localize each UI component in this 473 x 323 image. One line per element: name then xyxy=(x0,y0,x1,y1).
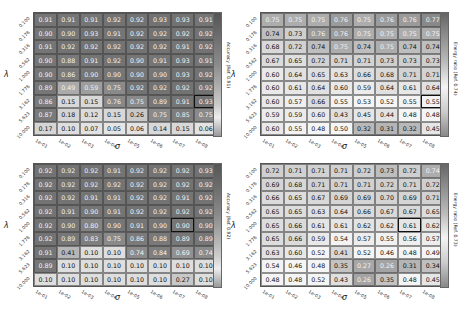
heatmap-cell: 0.12 xyxy=(80,108,103,122)
heatmap-cell: 0.65 xyxy=(261,232,284,246)
x-tick-label: 1e-08 xyxy=(195,138,209,149)
heatmap-cell: 0.60 xyxy=(261,67,284,81)
heatmap-cell: 0.91 xyxy=(126,218,149,232)
heatmap-cell: 0.65 xyxy=(284,54,307,68)
heatmap-cell: 0.91 xyxy=(34,13,57,27)
heatmap-cell: 0.75 xyxy=(126,95,149,109)
x-axis-title: σ xyxy=(115,142,120,151)
y-axis-title: λ xyxy=(231,221,236,230)
heatmap-cell: 0.75 xyxy=(284,13,307,27)
x-axis-title: σ xyxy=(342,293,347,302)
heatmap-cell: 0.46 xyxy=(284,259,307,273)
x-tick-label: 1e-03 xyxy=(80,138,94,149)
heatmap-cell: 0.10 xyxy=(171,259,194,273)
heatmap-cell: 0.60 xyxy=(330,81,353,95)
heatmap-cell: 0.55 xyxy=(375,232,398,246)
heatmap-cell: 0.92 xyxy=(126,27,149,41)
heatmap-cell: 0.67 xyxy=(398,205,421,219)
heatmap-cell: 0.71 xyxy=(330,178,353,192)
heatmap-cell: 0.92 xyxy=(171,164,194,178)
heatmap-cell: 0.59 xyxy=(307,232,330,246)
heatmap-cell: 0.10 xyxy=(80,273,103,287)
heatmap-cell: 0.92 xyxy=(148,40,171,54)
heatmap-cell: 0.53 xyxy=(353,95,376,109)
heatmap-cell: 0.75 xyxy=(148,108,171,122)
x-tick-label: 1e-06 xyxy=(149,138,163,149)
heatmap-cell: 0.89 xyxy=(171,232,194,246)
colorbar-label: Energy ratio (Ref. 0.74) xyxy=(453,42,458,95)
heatmap-cell: 0.73 xyxy=(284,27,307,41)
heatmap-cell: 0.27 xyxy=(353,259,376,273)
x-tick-label: 1e-07 xyxy=(172,138,186,149)
heatmap-cell: 0.92 xyxy=(57,40,80,54)
heatmap-cell: 0.92 xyxy=(171,27,194,41)
heatmap-cell: 0.43 xyxy=(330,108,353,122)
heatmap-cell: 0.05 xyxy=(103,122,126,136)
x-tick-label: 1e-02 xyxy=(284,289,298,300)
heatmap-cell: 0.71 xyxy=(307,164,330,178)
heatmap-cell: 0.10 xyxy=(80,246,103,260)
heatmap-cell: 0.17 xyxy=(34,122,57,136)
heatmap-cell: 0.91 xyxy=(103,191,126,205)
heatmap-cell: 0.10 xyxy=(57,259,80,273)
heatmap-cell: 0.74 xyxy=(398,40,421,54)
heatmap-cell: 0.66 xyxy=(353,67,376,81)
heatmap-cell: 0.90 xyxy=(126,54,149,68)
heatmap-cell: 0.60 xyxy=(261,122,284,136)
heatmap-cell: 0.93 xyxy=(171,54,194,68)
heatmap-cell: 0.46 xyxy=(375,246,398,260)
heatmap-cell: 0.75 xyxy=(375,40,398,54)
heatmap-cell: 0.92 xyxy=(103,54,126,68)
heatmap-cell: 0.90 xyxy=(126,67,149,81)
heatmap-cell: 0.27 xyxy=(171,273,194,287)
colorbar xyxy=(213,12,222,137)
heatmap-cell: 0.89 xyxy=(34,259,57,273)
heatmap-cell: 0.93 xyxy=(171,13,194,27)
heatmap-cell: 0.52 xyxy=(353,246,376,260)
heatmap-cell: 0.71 xyxy=(330,54,353,68)
heatmap-cell: 0.92 xyxy=(126,205,149,219)
heatmap-cell: 0.92 xyxy=(148,205,171,219)
heatmap-cell: 0.59 xyxy=(284,108,307,122)
heatmap-cell: 0.06 xyxy=(126,122,149,136)
heatmap-cell: 0.26 xyxy=(353,273,376,287)
heatmap-cell: 0.92 xyxy=(80,164,103,178)
heatmap-cell: 0.71 xyxy=(330,164,353,178)
heatmap-cell: 0.72 xyxy=(375,178,398,192)
heatmap-cell: 0.48 xyxy=(261,273,284,287)
heatmap-cell: 0.18 xyxy=(57,108,80,122)
heatmap-cell: 0.92 xyxy=(80,40,103,54)
heatmap-bottom-left: 0.920.920.920.910.920.920.920.930.920.92… xyxy=(33,163,218,287)
heatmap-cell: 0.62 xyxy=(375,218,398,232)
heatmap-cell: 0.72 xyxy=(353,164,376,178)
heatmap-cell: 0.86 xyxy=(57,67,80,81)
heatmap-cell: 0.10 xyxy=(34,273,57,287)
heatmap-cell: 0.90 xyxy=(80,67,103,81)
heatmap-cell: 0.65 xyxy=(284,205,307,219)
x-tick-label: 1e-01 xyxy=(262,138,276,149)
heatmap-cell: 0.92 xyxy=(148,27,171,41)
heatmap-cell: 0.50 xyxy=(330,122,353,136)
heatmap-cell: 0.91 xyxy=(34,40,57,54)
heatmap-cell: 0.48 xyxy=(284,273,307,287)
heatmap-cell: 0.65 xyxy=(261,218,284,232)
heatmap-cell: 0.92 xyxy=(34,178,57,192)
heatmap-cell: 0.76 xyxy=(375,13,398,27)
heatmap-cell: 0.92 xyxy=(126,81,149,95)
heatmap-cell: 0.71 xyxy=(284,164,307,178)
heatmap-cell: 0.57 xyxy=(284,95,307,109)
heatmap-cell: 0.59 xyxy=(80,81,103,95)
heatmap-cell: 0.10 xyxy=(126,259,149,273)
x-tick-label: 1e-05 xyxy=(126,289,140,300)
heatmap-cell: 0.66 xyxy=(353,205,376,219)
heatmap-cell: 0.52 xyxy=(375,95,398,109)
heatmap-cell: 0.76 xyxy=(330,27,353,41)
heatmap-cell: 0.71 xyxy=(353,178,376,192)
heatmap-cell: 0.63 xyxy=(330,67,353,81)
heatmap-cell: 0.90 xyxy=(148,67,171,81)
heatmap-cell: 0.90 xyxy=(57,218,80,232)
heatmap-cell: 0.63 xyxy=(261,246,284,260)
heatmap-cell: 0.48 xyxy=(398,108,421,122)
heatmap-cell: 0.31 xyxy=(375,122,398,136)
heatmap-cell: 0.92 xyxy=(103,13,126,27)
